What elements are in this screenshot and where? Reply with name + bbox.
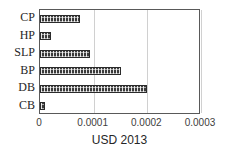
bar-hp bbox=[40, 32, 51, 40]
bar-row bbox=[40, 63, 121, 81]
x-tick-label-2: 0.0002 bbox=[131, 117, 162, 128]
bar-cp bbox=[40, 15, 80, 23]
x-tick-label-0: 0 bbox=[36, 117, 42, 128]
y-axis-label-slp: SLP bbox=[0, 44, 35, 62]
x-axis-title: USD 2013 bbox=[39, 133, 200, 147]
y-axis-category-labels: CPHPSLPBPDBCB bbox=[0, 9, 35, 114]
bar-chart: CPHPSLPBPDBCB 00.00010.00020.0003 USD 20… bbox=[0, 0, 226, 158]
bar-row bbox=[40, 28, 51, 46]
plot-area bbox=[39, 9, 200, 114]
gridline-3 bbox=[201, 10, 202, 113]
y-axis-label-cb: CB bbox=[0, 97, 35, 115]
x-tick-label-3: 0.0003 bbox=[185, 117, 216, 128]
bar-bp bbox=[40, 67, 121, 75]
y-axis-label-cp: CP bbox=[0, 9, 35, 27]
bar-row bbox=[40, 10, 80, 28]
y-axis-label-db: DB bbox=[0, 79, 35, 97]
bar-db bbox=[40, 85, 147, 93]
bars-layer bbox=[40, 10, 199, 113]
bar-row bbox=[40, 98, 45, 116]
bar-slp bbox=[40, 50, 90, 58]
x-axis-tick-labels: 00.00010.00020.0003 bbox=[0, 117, 226, 131]
bar-row bbox=[40, 80, 147, 98]
x-tick-label-1: 0.0001 bbox=[77, 117, 108, 128]
y-axis-label-hp: HP bbox=[0, 27, 35, 45]
bar-cb bbox=[40, 102, 45, 110]
y-axis-label-bp: BP bbox=[0, 62, 35, 80]
bar-row bbox=[40, 45, 90, 63]
